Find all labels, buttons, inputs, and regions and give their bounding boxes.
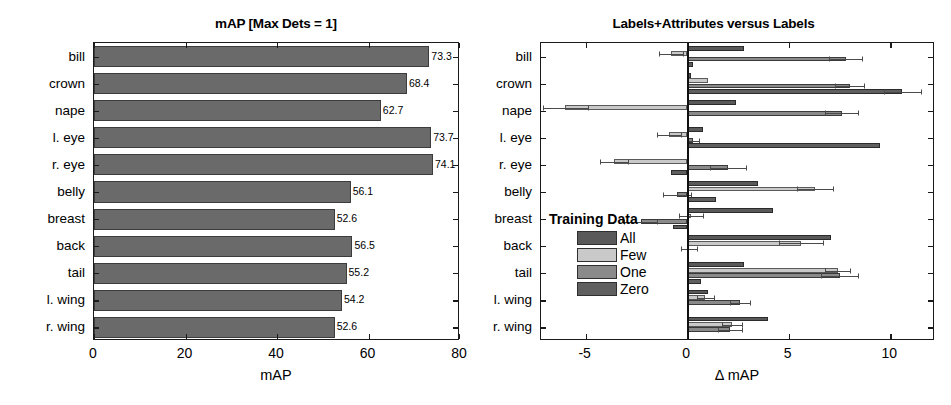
legend-swatch-zero [577, 282, 617, 296]
x-tick-label: 5 [784, 345, 792, 361]
bar-crown-one [687, 84, 849, 89]
x-tick-label: -5 [578, 345, 590, 361]
y-label-breast: breast [494, 211, 532, 226]
x-tick-label: 0 [89, 345, 97, 361]
left-x-axis-title: mAP [93, 367, 459, 383]
bar-lwing [94, 290, 342, 311]
error-bar [543, 108, 588, 109]
y-tick [94, 111, 99, 112]
error-bar-cap [797, 187, 798, 192]
x-tick [789, 334, 790, 339]
error-bar [825, 113, 857, 114]
legend-entry-one: One [549, 264, 649, 280]
x-tick-label: 0 [682, 345, 690, 361]
error-bar-cap [730, 301, 731, 306]
bar-bill [94, 46, 429, 67]
x-tick-label: 60 [360, 345, 376, 361]
error-bar-cap [659, 51, 660, 56]
x-tick [369, 43, 370, 48]
bar-tail-one [687, 273, 839, 278]
y-label-back: back [503, 238, 532, 253]
legend-entries: AllFewOneZero [549, 230, 649, 297]
error-bar [825, 271, 849, 272]
y-label-nape: nape [55, 102, 85, 117]
x-tick [789, 43, 790, 48]
y-tick [541, 84, 546, 85]
x-tick-label: 40 [268, 345, 284, 361]
error-bar [687, 141, 699, 142]
legend-title: Training Data [549, 211, 649, 227]
y-tick [928, 327, 933, 328]
y-label-back: back [56, 238, 85, 253]
error-bar [779, 243, 824, 244]
error-bar [797, 189, 834, 190]
y-tick [453, 327, 458, 328]
legend-label-few: Few [620, 247, 646, 263]
bar-nape [94, 100, 381, 121]
error-bar-cap [710, 165, 711, 170]
error-bar [821, 276, 858, 277]
bar-bill-one [687, 57, 845, 62]
error-bar-cap [858, 273, 859, 278]
y-tick [94, 246, 99, 247]
y-tick [453, 273, 458, 274]
error-bar [835, 86, 863, 87]
y-tick [453, 84, 458, 85]
error-bar-cap [829, 57, 830, 62]
y-label-reye: r. eye [52, 156, 85, 171]
x-tick [890, 334, 891, 339]
error-bar-cap [779, 241, 780, 246]
legend-entry-all: All [549, 230, 649, 246]
x-tick [586, 43, 587, 48]
bar-lwing-all [687, 290, 707, 295]
y-label-rwing: r. wing [46, 319, 85, 334]
y-label-leye: l. eye [500, 129, 532, 144]
bar-rwing [94, 317, 335, 338]
error-bar [730, 303, 750, 304]
y-tick [453, 111, 458, 112]
y-label-belly: belly [504, 184, 532, 199]
y-tick [94, 273, 99, 274]
bar-back-all [687, 235, 831, 240]
bar-value-label: 73.7 [433, 131, 453, 143]
y-tick [928, 300, 933, 301]
y-label-tail: tail [515, 265, 532, 280]
error-bar-cap [858, 111, 859, 116]
y-label-tail: tail [68, 265, 85, 280]
error-bar-cap [600, 160, 601, 165]
y-tick [94, 165, 99, 166]
y-tick [453, 246, 458, 247]
x-tick-label: 80 [451, 345, 467, 361]
right-chart-title: Labels+Attributes versus Labels [476, 16, 951, 31]
y-tick [928, 219, 933, 220]
bar-value-label: 73.3 [431, 50, 451, 62]
bar-leye-zero [687, 143, 880, 148]
bar-leye [94, 127, 431, 148]
y-tick [94, 300, 99, 301]
x-tick [277, 43, 278, 48]
bar-tail [94, 263, 347, 284]
error-bar-cap [657, 133, 658, 138]
y-tick [541, 246, 546, 247]
y-tick [453, 57, 458, 58]
error-bar-cap [663, 192, 664, 197]
error-bar [710, 168, 747, 169]
y-tick [541, 219, 546, 220]
x-tick [890, 43, 891, 48]
error-bar-cap [703, 214, 704, 219]
error-bar-cap [683, 51, 684, 56]
left-chart-panel: mAP [Max Dets = 1] billcrownnapel. eyer.… [0, 0, 475, 405]
error-bar [681, 249, 697, 250]
left-y-axis-labels: billcrownnapel. eyer. eyebellybreastback… [0, 42, 85, 340]
y-label-breast: breast [47, 211, 85, 226]
error-bar-cap [750, 301, 751, 306]
error-bar [659, 54, 683, 55]
bar-belly-zero [687, 197, 715, 202]
legend-label-one: One [620, 264, 646, 280]
legend-swatch-one [577, 265, 617, 279]
legend-entry-few: Few [549, 247, 649, 263]
y-tick [928, 57, 933, 58]
bar-tail-all [687, 262, 744, 267]
error-bar-cap [884, 89, 885, 94]
bar-belly-all [687, 181, 758, 186]
